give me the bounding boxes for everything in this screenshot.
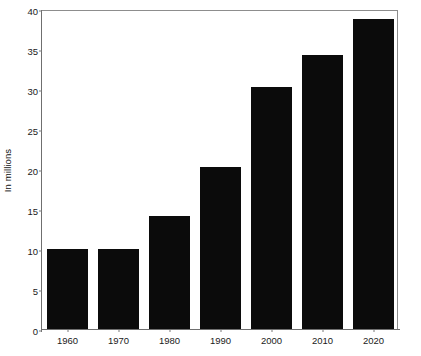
bar bbox=[353, 19, 393, 329]
x-tick-label: 1970 bbox=[108, 335, 129, 346]
bar bbox=[47, 249, 87, 329]
x-tick-label: 2010 bbox=[312, 335, 333, 346]
y-tick-label: 35 bbox=[27, 46, 38, 57]
x-tick-mark bbox=[169, 329, 170, 332]
bar bbox=[149, 216, 189, 329]
bar-chart-figure: In millions 0510152025303540 19601970198… bbox=[0, 0, 421, 356]
x-tick-mark bbox=[67, 329, 68, 332]
y-axis-label-text: In millions bbox=[3, 148, 14, 191]
y-tick-label: 10 bbox=[27, 246, 38, 257]
y-axis-label: In millions bbox=[0, 0, 16, 340]
y-tick-mark bbox=[39, 331, 42, 332]
y-tick-label: 20 bbox=[27, 166, 38, 177]
x-tick-label: 1990 bbox=[210, 335, 231, 346]
y-tick-label: 30 bbox=[27, 86, 38, 97]
x-tick-label: 1980 bbox=[159, 335, 180, 346]
plot-area: 0510152025303540 19601970198019902000201… bbox=[41, 10, 398, 330]
x-tick-label: 2000 bbox=[261, 335, 282, 346]
y-tick-label: 15 bbox=[27, 206, 38, 217]
bar bbox=[302, 55, 342, 329]
x-tick-mark bbox=[220, 329, 221, 332]
x-tick-label: 2020 bbox=[363, 335, 384, 346]
x-tick-mark bbox=[373, 329, 374, 332]
y-tick-label: 0 bbox=[33, 326, 38, 337]
bar bbox=[200, 167, 240, 329]
y-tick-label: 5 bbox=[33, 286, 38, 297]
y-tick-label: 40 bbox=[27, 6, 38, 17]
x-tick-mark bbox=[322, 329, 323, 332]
bar bbox=[251, 87, 291, 329]
bar bbox=[98, 249, 138, 329]
x-tick-mark bbox=[118, 329, 119, 332]
bar-series bbox=[42, 11, 397, 329]
x-tick-label: 1960 bbox=[57, 335, 78, 346]
y-tick-label: 25 bbox=[27, 126, 38, 137]
x-tick-mark bbox=[271, 329, 272, 332]
